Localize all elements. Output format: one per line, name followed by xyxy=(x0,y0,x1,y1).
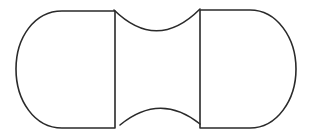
right-cap-shape xyxy=(200,10,296,128)
top-concave-arc xyxy=(114,9,200,31)
bottom-convex-arc xyxy=(120,108,200,125)
left-cap-shape xyxy=(16,11,115,128)
diagram-canvas xyxy=(0,0,310,138)
dumbbell-diagram xyxy=(0,0,310,138)
